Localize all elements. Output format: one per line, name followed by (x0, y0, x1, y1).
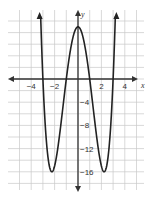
y-tick-label: −4 (80, 98, 90, 107)
y-axis-label: y (80, 10, 85, 19)
y-tick-label: −8 (80, 121, 90, 130)
y-tick-label: −12 (80, 145, 94, 154)
x-tick-label: −4 (27, 82, 37, 91)
y-tick-label: −16 (80, 168, 94, 177)
x-tick-label: 2 (99, 82, 104, 91)
x-axis-left-arrow-icon (8, 76, 14, 82)
quartic-graph: xy−4−224−4−8−12−16 (0, 0, 146, 205)
y-axis-down-arrow-icon (75, 186, 81, 192)
curve-left-arrow-icon (37, 12, 43, 19)
x-axis-right-arrow-icon (132, 76, 138, 82)
x-tick-label: −2 (50, 82, 60, 91)
curve-right-arrow-icon (113, 12, 119, 19)
x-axis-label: x (140, 81, 145, 90)
x-tick-label: 4 (123, 82, 128, 91)
